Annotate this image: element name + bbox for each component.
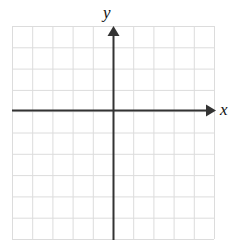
x-axis-label: x (220, 101, 228, 118)
y-axis-label: y (103, 4, 111, 21)
y-axis-arrowhead-icon (108, 26, 120, 36)
coordinate-plane-figure: y x (0, 0, 236, 251)
graph-grid-and-axes (0, 0, 236, 251)
